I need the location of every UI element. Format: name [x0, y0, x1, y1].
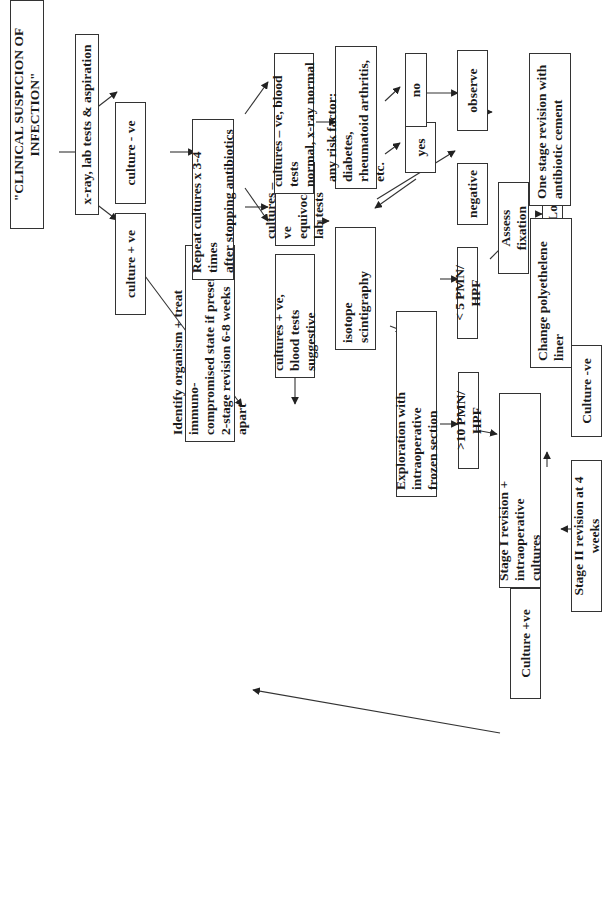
- node-risk-factor: any risk factor: diabetes, rheumatoid ar…: [335, 46, 377, 189]
- node-gt10-pmn: >10 PMN/ HPF: [458, 372, 479, 469]
- node-start: "CLINICAL SUSPICION OF INFECTION": [10, 0, 44, 229]
- node-culture-negative: culture - ve: [115, 102, 146, 204]
- node-cultures-positive-blood: cultures + ve, blood tests suggestive: [275, 254, 315, 378]
- node-culture-negative-2: Culture -ve: [571, 345, 602, 437]
- node-no: no: [405, 53, 427, 127]
- node-lt5-pmn: < 5 PMN/ HPF: [457, 247, 478, 339]
- node-cultures-negative-normal: cultures – ve, blood tests normal, x-ray…: [274, 53, 314, 194]
- node-observe: observe: [457, 50, 488, 131]
- node-xray: x-ray, lab tests & aspiration: [75, 34, 99, 215]
- node-culture-positive-2: Culture +ve: [510, 588, 541, 699]
- node-exploration: Exploration with intraoperative frozen s…: [396, 311, 437, 497]
- node-change-liner: Change polyethelene liner: [530, 218, 572, 368]
- node-repeat-cultures: Repeat cultures x 3-4 times after stoppi…: [192, 119, 234, 280]
- node-stage1-revision: Stage I revision + intraoperative cultur…: [499, 393, 541, 588]
- node-yes: yes: [405, 122, 436, 173]
- node-one-stage-revision: One stage revision with antibiotic cemen…: [529, 53, 571, 206]
- node-negative: negative: [457, 163, 488, 225]
- flowchart-canvas: "CLINICAL SUSPICION OF INFECTION" x-ray,…: [0, 0, 613, 914]
- node-stage2-revision: Stage II revision at 4 weeks: [571, 460, 602, 612]
- node-culture-positive: culture + ve: [115, 213, 146, 315]
- node-isotope-scintigraphy: isotope scintigraphy: [335, 227, 376, 350]
- node-assess-fixation: Assess fixation: [498, 182, 529, 274]
